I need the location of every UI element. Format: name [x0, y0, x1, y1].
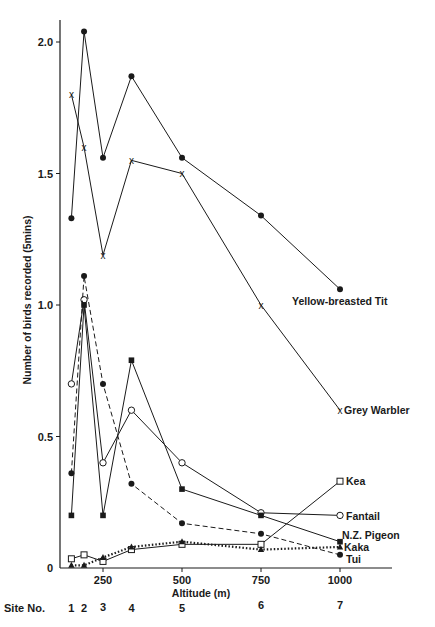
filled-square-marker	[129, 357, 135, 363]
series-label: Yellow-breasted Tit	[292, 295, 388, 307]
site-number: 5	[179, 602, 185, 614]
axes: 00.51.01.52.025050075010001234567	[38, 20, 392, 614]
x-axis-title: Altitude (m)	[172, 587, 230, 599]
filled-circle-marker	[68, 470, 74, 476]
filled-circle-marker	[128, 73, 134, 79]
open-circle-marker	[337, 512, 343, 518]
x-marker: x	[82, 142, 87, 153]
filled-square-marker	[179, 486, 185, 492]
filled-circle-marker	[100, 381, 106, 387]
series-line	[71, 542, 340, 566]
series-label: Kaka	[344, 541, 369, 553]
filled-circle-marker	[258, 531, 264, 537]
y-tick-label: 0.5	[38, 431, 53, 443]
x-marker: x	[180, 168, 185, 179]
x-marker: x	[338, 405, 343, 416]
filled-triangle-marker	[68, 562, 74, 568]
open-square-marker	[337, 478, 343, 484]
filled-circle-marker	[81, 28, 87, 34]
site-number: 2	[81, 602, 87, 614]
filled-circle-marker	[337, 552, 343, 558]
site-row-label: Site No.	[4, 602, 45, 614]
series-tui	[68, 273, 343, 558]
x-tick-label: 500	[173, 574, 191, 586]
open-circle-marker	[100, 460, 106, 466]
filled-circle-marker	[179, 520, 185, 526]
open-square-marker	[68, 556, 74, 562]
site-number: 7	[337, 599, 343, 611]
filled-square-marker	[258, 513, 264, 519]
series-line	[71, 300, 340, 516]
bird-count-altitude-chart: 00.51.01.52.025050075010001234567 xxxxxx…	[0, 0, 435, 627]
open-circle-marker	[68, 381, 74, 387]
y-tick-label: 1.0	[38, 299, 53, 311]
filled-circle-marker	[68, 215, 74, 221]
x-marker: x	[129, 155, 134, 166]
filled-circle-marker	[81, 273, 87, 279]
open-circle-marker	[128, 407, 134, 413]
x-tick-label: 250	[94, 574, 112, 586]
filled-circle-marker	[100, 155, 106, 161]
filled-circle-marker	[337, 286, 343, 292]
open-circle-marker	[179, 460, 185, 466]
open-circle-marker	[81, 297, 87, 303]
filled-circle-marker	[128, 481, 134, 487]
site-number: 6	[258, 599, 264, 611]
y-tick-label: 1.5	[38, 168, 53, 180]
series-label: N.Z. Pigeon	[342, 529, 400, 541]
x-tick-label: 1000	[328, 574, 352, 586]
series-labels: Yellow-breasted TitGrey WarblerKeaFantai…	[292, 295, 410, 565]
series-line	[71, 95, 340, 411]
series-label: Tui	[346, 553, 361, 565]
filled-square-marker	[69, 513, 75, 519]
site-number: 1	[68, 602, 74, 614]
series-line	[71, 31, 340, 289]
y-axis-title: Number of birds recorded (5mins)	[21, 215, 33, 384]
series-label: Grey Warbler	[344, 404, 410, 416]
y-tick-label: 0	[47, 562, 53, 574]
filled-square-marker	[100, 513, 106, 519]
series-line	[71, 305, 340, 542]
x-marker: x	[259, 300, 264, 311]
open-square-marker	[81, 552, 87, 558]
series-yellow-breasted-tit	[68, 28, 343, 292]
site-number: 3	[100, 601, 106, 613]
series-kaka	[68, 538, 343, 568]
series-label: Fantail	[346, 510, 380, 522]
series-n-z-pigeon	[69, 302, 343, 544]
filled-circle-marker	[258, 213, 264, 219]
site-number: 4	[128, 602, 135, 614]
filled-circle-marker	[179, 155, 185, 161]
series-label: Kea	[346, 475, 365, 487]
x-tick-label: 750	[252, 574, 270, 586]
series-kea	[68, 478, 343, 564]
y-tick-label: 2.0	[38, 36, 53, 48]
x-marker: x	[69, 89, 74, 100]
x-marker: x	[101, 250, 106, 261]
